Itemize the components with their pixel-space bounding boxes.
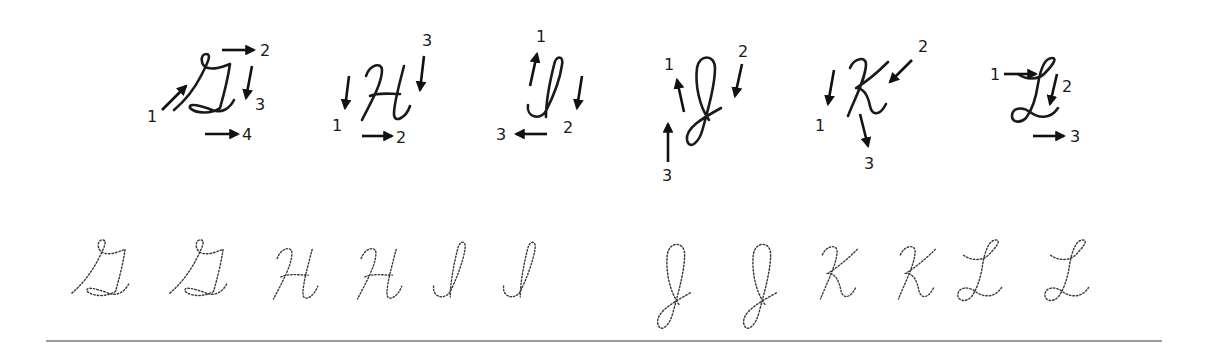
step-number-2: 2 [738, 42, 748, 61]
demo-letter-k: 1 2 3 [815, 37, 928, 173]
trace-row [72, 240, 1089, 328]
trace-letter-h-2 [358, 249, 402, 299]
demo-row: 1 2 3 4 1 2 3 1 2 3 [0, 0, 1230, 359]
demo-letter-h: 1 2 3 [332, 31, 432, 147]
stroke-arrow-1 [677, 80, 684, 112]
trace-letter-i-1 [434, 242, 466, 297]
handwriting-worksheet: 1 2 3 4 1 2 3 1 2 3 [0, 0, 1230, 359]
step-number-1: 1 [332, 116, 342, 135]
demo-letter-j: 1 2 3 [662, 42, 748, 185]
trace-letter-h-1 [274, 249, 318, 299]
trace-letter-k-2 [899, 247, 936, 299]
step-number-1: 1 [990, 65, 1000, 84]
step-number-3: 3 [662, 166, 672, 185]
trace-letter-l-1 [958, 240, 1002, 300]
stroke-arrow-3 [420, 56, 424, 90]
trace-letter-k-1 [821, 247, 858, 299]
trace-letter-g-1 [72, 240, 129, 296]
stroke-arrow-1 [828, 70, 834, 104]
baseline-rule [46, 340, 1162, 342]
stroke-arrow-1 [530, 54, 537, 86]
step-number-1: 1 [664, 55, 674, 74]
trace-letter-l-2 [1045, 240, 1089, 300]
stroke-arrow-1 [345, 76, 349, 108]
stroke-arrow-1 [162, 86, 186, 110]
stroke-arrow-2 [577, 76, 582, 108]
step-number-2: 2 [918, 37, 928, 56]
stroke-arrow-3 [246, 66, 252, 98]
demo-letter-g: 1 2 3 4 [147, 41, 270, 144]
step-number-1: 1 [147, 107, 157, 126]
trace-letter-g-2 [170, 240, 227, 296]
step-number-2: 2 [563, 118, 573, 137]
step-number-4: 4 [242, 125, 252, 144]
stroke-arrow-2 [1050, 74, 1057, 104]
trace-letter-j-1 [658, 244, 691, 328]
step-number-2: 2 [1062, 77, 1072, 96]
stroke-arrow-2 [735, 64, 742, 96]
demo-letter-i: 1 2 3 [496, 27, 582, 144]
step-number-1: 1 [536, 27, 546, 46]
demo-letter-l: 1 2 3 [990, 58, 1080, 146]
stroke-arrow-3 [860, 114, 868, 146]
step-number-1: 1 [815, 116, 825, 135]
step-number-3: 3 [496, 125, 506, 144]
step-number-2: 2 [260, 41, 270, 60]
step-number-3: 3 [422, 31, 432, 50]
step-number-3: 3 [864, 154, 874, 173]
trace-letter-j-2 [744, 244, 777, 328]
trace-letter-i-2 [504, 242, 536, 297]
step-number-3: 3 [1070, 127, 1080, 146]
step-number-3: 3 [255, 95, 265, 114]
stroke-arrow-2 [890, 60, 912, 82]
step-number-2: 2 [396, 128, 406, 147]
